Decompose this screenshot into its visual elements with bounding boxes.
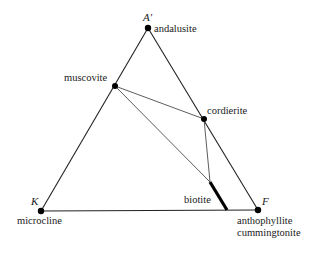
vertex-label-a: A′	[142, 11, 153, 23]
label-microcline: microcline	[17, 215, 62, 226]
edge-a-k	[41, 28, 148, 211]
label-cordierite: cordierite	[207, 105, 248, 116]
tie-line-muscovite-cordierite	[115, 86, 204, 119]
ternary-diagram: A′ K F andalusite muscovite cordierite b…	[0, 0, 323, 254]
biotite-bar	[210, 182, 227, 210]
point-anthophyllite	[255, 207, 261, 213]
vertex-label-f: F	[261, 195, 269, 207]
vertex-label-k: K	[30, 195, 39, 207]
label-anthophyllite: anthophyllite	[237, 215, 293, 226]
label-andalusite: andalusite	[154, 23, 197, 34]
point-microcline	[38, 208, 44, 214]
label-biotite: biotite	[184, 194, 211, 205]
label-cummingtonite: cummingtonite	[237, 227, 301, 238]
point-andalusite	[145, 25, 151, 31]
point-cordierite	[201, 116, 207, 122]
label-muscovite: muscovite	[64, 72, 107, 83]
point-muscovite	[112, 83, 118, 89]
tie-line-muscovite-biotite	[115, 86, 210, 182]
